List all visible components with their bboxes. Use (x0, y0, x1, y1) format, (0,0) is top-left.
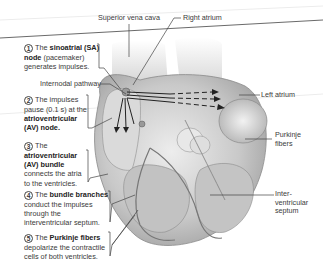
step-2-av-node: 2The impulses pause (0.1 s) at the atrio… (24, 95, 87, 133)
step-number-badge: 2 (24, 96, 33, 105)
step-3-av-bundle: 3The atrioventricular (AV) bundle connec… (24, 141, 82, 188)
label-right-atrium: Right atrium (183, 14, 222, 23)
label-superior-vena-cava: Superior vena cava (98, 14, 160, 23)
step-number-badge: 5 (24, 234, 33, 243)
label-septum-line3: septum (275, 207, 308, 216)
step-number-badge: 3 (24, 142, 33, 151)
label-left-atrium: Left atrium (261, 91, 295, 100)
label-purkinje-fibers: Purkinje fibers (275, 131, 301, 148)
label-interventricular-septum: Inter- ventricular septum (275, 190, 308, 216)
label-internodal-pathway: Internodal pathway (40, 80, 101, 89)
step-4-bundle-branches: 4The bundle branches conduct the impulse… (24, 190, 108, 228)
label-purkinje-line2: fibers (275, 140, 301, 149)
step-1-sa-node: 1The sinoatrial (SA) node (pacemaker) ge… (24, 43, 99, 71)
step-number-badge: 4 (24, 191, 33, 200)
step-number-badge: 1 (24, 44, 33, 53)
step-5-purkinje-fibers: 5The Purkinje fibers depolarize the cont… (24, 233, 105, 261)
